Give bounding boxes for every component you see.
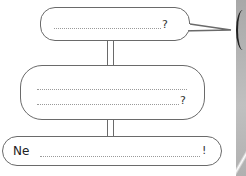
prefix-text: Ne <box>13 144 29 158</box>
tail-join <box>187 24 190 30</box>
question-mark: ? <box>180 95 186 106</box>
question-bubble-1: ? <box>40 7 190 41</box>
connector-1-2 <box>107 40 114 66</box>
exclamation-mark: ! <box>202 145 206 156</box>
answer-bubble: Ne ! <box>2 136 222 166</box>
answer-line-2[interactable] <box>37 104 179 105</box>
question-bubble-2: ? <box>20 65 205 120</box>
connector-2-3 <box>107 119 114 137</box>
answer-line-1[interactable] <box>37 89 187 90</box>
question-mark: ? <box>162 19 168 30</box>
answer-line[interactable] <box>54 28 161 29</box>
answer-line[interactable] <box>40 156 200 157</box>
